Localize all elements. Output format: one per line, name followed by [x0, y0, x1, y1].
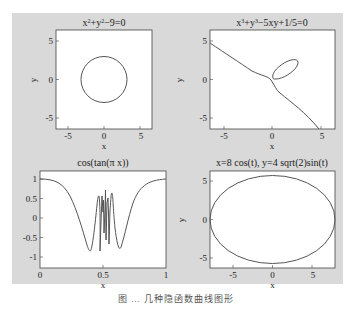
x-tick: -5 [220, 131, 228, 141]
x-tick: 0 [270, 270, 275, 280]
y-tick: -5 [200, 113, 208, 123]
subplot-circle: x2+y2−9=0 -5 0 5 5 0 -5 y x [28, 17, 152, 151]
plot-area [56, 30, 152, 129]
x-tick: 0 [102, 131, 107, 141]
x-tick: -5 [229, 270, 237, 280]
y-tick: 0 [33, 213, 38, 223]
x-axis-label: x [102, 141, 107, 151]
y-axis-label: y [174, 77, 184, 82]
subplot-title: cos(tan(π x)) [77, 157, 128, 169]
x-axis-label: x [270, 141, 275, 151]
x-tick: 0.5 [97, 270, 109, 280]
plot-area [210, 30, 335, 129]
x-tick: 5 [320, 131, 325, 141]
x-tick: 5 [139, 131, 144, 141]
y-tick: 0.5 [26, 194, 38, 204]
x-tick: -5 [64, 131, 72, 141]
y-tick: 0 [49, 75, 54, 85]
subplot-title: x2+y2−9=0 [83, 17, 126, 28]
subplot-cos-tan: cos(tan(π x)) 0 0.5 1 1 0.5 0 -0.5 -1 x [23, 157, 169, 290]
chart-canvas: x2+y2−9=0 -5 0 5 5 0 -5 y x x3+y3−5xy+1/… [0, 0, 352, 311]
y-tick: -1 [30, 252, 38, 262]
y-tick: -5 [200, 253, 208, 263]
y-axis-label: y [176, 217, 186, 222]
x-axis-label: x [101, 280, 106, 290]
subplot-ellipse: x=8 cos(t), y=4 sqrt(2)sin(t) -5 0 5 5 0… [176, 157, 335, 290]
y-axis-label: y [28, 77, 38, 82]
x-tick: 5 [311, 270, 316, 280]
y-tick: 0 [203, 75, 208, 85]
y-tick: 5 [203, 36, 208, 46]
x-axis-label: x [270, 280, 275, 290]
y-tick: -5 [46, 113, 54, 123]
y-tick: 0 [203, 215, 208, 225]
y-tick: 1 [33, 174, 38, 184]
subplot-title: x=8 cos(t), y=4 sqrt(2)sin(t) [216, 157, 328, 169]
figure-caption: 图 … 几种隐函数曲线图形 [0, 292, 352, 305]
plot-area [210, 171, 335, 268]
plot-area [40, 171, 166, 268]
x-tick: 1 [164, 270, 169, 280]
y-tick: -0.5 [23, 233, 38, 243]
y-tick: 5 [49, 36, 54, 46]
subplot-title: x3+y3−5xy+1/5=0 [236, 17, 307, 28]
y-tick: 5 [203, 176, 208, 186]
x-tick: 0 [38, 270, 43, 280]
x-tick: 0 [270, 131, 275, 141]
subplot-cubic: x3+y3−5xy+1/5=0 -5 0 5 5 0 -5 y x [174, 17, 335, 151]
